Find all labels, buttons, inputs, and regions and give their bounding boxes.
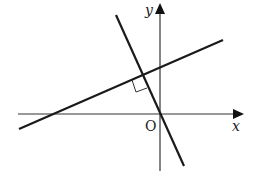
line-1 [19, 40, 223, 129]
right-angle-marker [132, 80, 147, 92]
y-axis [155, 3, 165, 171]
y-axis-label: y [144, 2, 154, 18]
y-axis-arrow-icon [155, 3, 165, 14]
x-axis-label: x [232, 118, 240, 134]
line-2 [116, 15, 184, 166]
coordinate-diagram: y x O [0, 0, 255, 183]
origin-label: O [145, 118, 156, 134]
